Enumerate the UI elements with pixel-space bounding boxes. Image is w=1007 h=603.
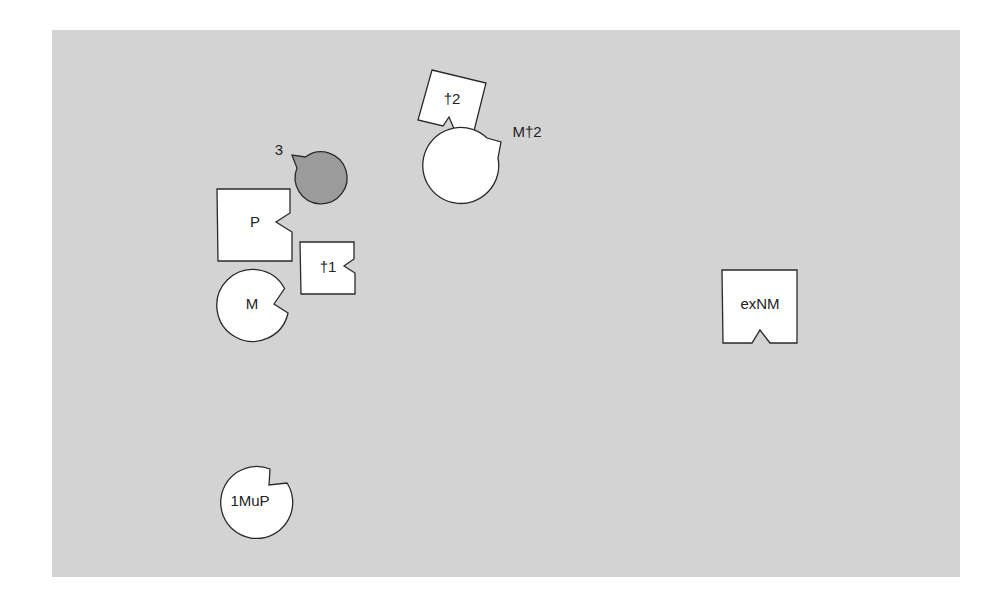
shape-t1: †1 <box>300 242 355 294</box>
shape-label: M†2 <box>512 123 541 140</box>
shape-M: M <box>217 269 288 341</box>
shape-label: M <box>246 295 259 312</box>
shape-label: 1MuP <box>230 492 269 509</box>
shape-label: exNM <box>740 295 779 312</box>
shape-label: P <box>250 213 260 230</box>
grey-panel <box>52 30 960 577</box>
shape-exNM: exNM <box>722 270 797 343</box>
diagram-canvas: 3 P †1 M †2 M†2 exNM 1MuP <box>0 0 1007 603</box>
shape-P: P <box>217 189 292 261</box>
shape-label: †1 <box>320 258 337 275</box>
shape-label: 3 <box>275 141 283 158</box>
shape-label: †2 <box>444 90 461 107</box>
